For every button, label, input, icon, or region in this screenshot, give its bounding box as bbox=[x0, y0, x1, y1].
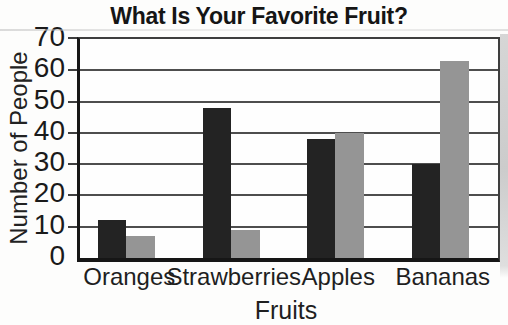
x-category-labels: OrangesStrawberriesApplesBananas bbox=[77, 263, 495, 293]
bar-apples-black-bars bbox=[307, 139, 335, 258]
y-tick-label-60: 60 bbox=[34, 54, 65, 82]
y-tick-50 bbox=[68, 101, 77, 103]
bar-bananas-black-bars bbox=[412, 164, 440, 258]
bar-strawberries-black-bars bbox=[203, 108, 231, 258]
y-tick-label-40: 40 bbox=[34, 117, 65, 145]
y-tick-label-70: 70 bbox=[34, 23, 65, 51]
bar-oranges-black-bars bbox=[98, 220, 126, 258]
gridline-60 bbox=[80, 69, 498, 71]
x-category-label-bananas: Bananas bbox=[395, 263, 490, 291]
y-tick-label-30: 30 bbox=[34, 148, 65, 176]
y-tick-70 bbox=[68, 37, 77, 39]
scan-streak-artifact bbox=[0, 29, 508, 31]
chart-title: What Is Your Favorite Fruit? bbox=[10, 3, 508, 30]
y-tick-label-0: 0 bbox=[49, 242, 65, 270]
x-category-label-strawberries: Strawberries bbox=[166, 263, 301, 291]
scanned-bar-chart-page: What Is Your Favorite Fruit? Number of P… bbox=[0, 0, 508, 325]
gridline-50 bbox=[80, 101, 498, 103]
plot-area bbox=[77, 37, 500, 262]
y-tick-60 bbox=[68, 69, 77, 71]
gridline-40 bbox=[80, 132, 498, 134]
scan-edge-artifact bbox=[500, 34, 508, 278]
y-tick-label-20: 20 bbox=[34, 179, 65, 207]
bar-apples-gray-bars bbox=[335, 133, 364, 258]
x-axis-label: Fruits bbox=[77, 296, 495, 325]
y-tick-labels: 010203040506070 bbox=[0, 37, 71, 256]
y-tick-label-50: 50 bbox=[34, 86, 65, 114]
y-tick-40 bbox=[68, 132, 77, 134]
x-category-label-apples: Apples bbox=[302, 263, 375, 291]
y-tick-20 bbox=[68, 194, 77, 196]
bar-bananas-gray-bars bbox=[440, 61, 469, 258]
x-category-label-oranges: Oranges bbox=[83, 263, 175, 291]
y-tick-30 bbox=[68, 163, 77, 165]
bar-oranges-gray-bars bbox=[126, 236, 155, 258]
bar-strawberries-gray-bars bbox=[231, 230, 260, 258]
y-tick-10 bbox=[68, 226, 77, 228]
y-tick-label-10: 10 bbox=[34, 211, 65, 239]
